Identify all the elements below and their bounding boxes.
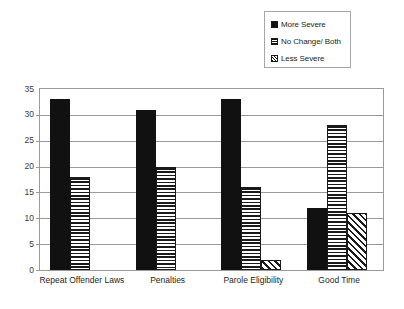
bar-chart: More Severe No Change/ Both Less Severe … [0,0,404,309]
legend-label: No Change/ Both [281,37,341,46]
legend-swatch-solid-icon [271,21,278,28]
x-axis-tick-label: Repeat Offender Laws [39,275,125,286]
x-axis-tick-label: Good Time [296,275,382,286]
plot-area [39,88,384,271]
y-axis-tick-label: 15 [10,188,34,197]
legend-swatch-diagonal-icon [271,55,278,62]
bar-group [297,89,383,270]
x-axis: Repeat Offender LawsPenaltiesParole Elig… [39,275,384,291]
legend-item-less-severe: Less Severe [271,50,346,66]
bar [261,260,281,270]
bar [307,208,327,270]
y-axis-tick-label: 20 [10,162,34,171]
bar [70,177,90,270]
legend-label: Less Severe [281,54,324,63]
legend-swatch-hstripe-icon [271,38,278,45]
y-axis-tick-label: 35 [10,85,34,94]
bar [156,167,176,270]
y-axis-tick-label: 30 [10,110,34,119]
legend-label: More Severe [281,20,326,29]
y-axis-tick-label: 5 [10,240,34,249]
x-axis-tick-label: Parole Eligibility [211,275,297,286]
bar [347,213,367,270]
bar [221,99,241,270]
bar [327,125,347,270]
bar [241,187,261,270]
legend-item-more-severe: More Severe [271,16,346,32]
bar-group [212,89,298,270]
legend-item-no-change-both: No Change/ Both [271,33,346,49]
bar-group [126,89,212,270]
y-axis-tick-label: 25 [10,136,34,145]
y-axis-tick-label: 0 [10,266,34,275]
x-axis-tick-label: Penalties [125,275,211,286]
bar [50,99,70,270]
bar-group [40,89,126,270]
y-axis-tick-mark [36,270,40,271]
chart-legend: More Severe No Change/ Both Less Severe [264,11,351,68]
bar [136,110,156,270]
y-axis: 05101520253035 [8,88,34,271]
y-axis-tick-label: 10 [10,214,34,223]
